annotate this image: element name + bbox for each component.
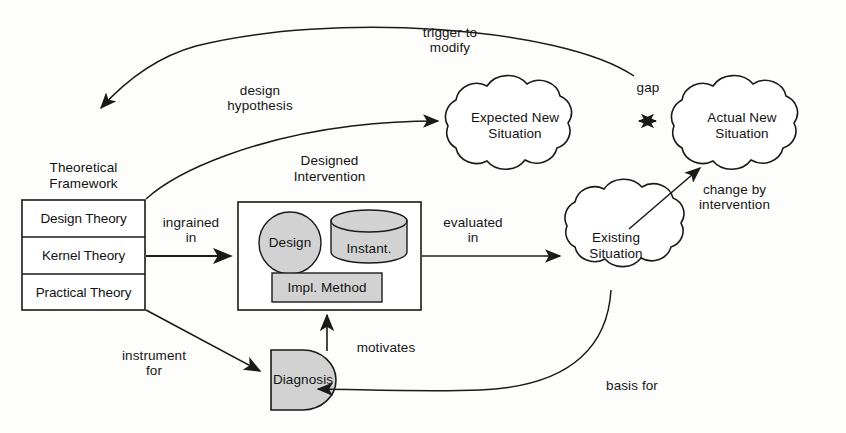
- tf-row-design-theory[interactable]: Design Theory: [22, 211, 145, 226]
- edge-label-motivates: motivates: [345, 340, 427, 355]
- tf-row-kernel-theory[interactable]: Kernel Theory: [22, 248, 145, 263]
- diagram-canvas: Theoretical Framework Design Theory Kern…: [0, 0, 846, 433]
- actual-new-situation-label: Actual New Situation: [683, 110, 801, 141]
- diagnosis-label: Diagnosis: [268, 372, 338, 388]
- expected-new-situation-label: Expected New Situation: [450, 110, 580, 141]
- edge-label-gap: gap: [618, 80, 678, 95]
- impl-method-label: Impl. Method: [272, 280, 382, 296]
- edge-label-evaluated-in: evaluated in: [432, 215, 514, 245]
- tf-row-practical-theory[interactable]: Practical Theory: [22, 285, 145, 300]
- designed-intervention-header: Designed Intervention: [238, 153, 421, 184]
- theoretical-framework-header: Theoretical Framework: [22, 160, 145, 191]
- edge-label-trigger-to-modify: trigger to modify: [395, 25, 505, 55]
- edge-label-ingrained-in: ingrained in: [152, 215, 230, 245]
- edge-label-basis-for: basis for: [592, 378, 672, 393]
- edge-label-design-hypothesis: design hypothesis: [205, 83, 315, 113]
- edge-label-change-by-intervention: change by intervention: [672, 182, 797, 212]
- existing-situation-label: Existing Situation: [571, 230, 661, 261]
- edge-label-instrument-for: instrument for: [108, 348, 200, 378]
- design-label: Design: [259, 235, 321, 251]
- instantiation-label: Instant.: [334, 241, 404, 257]
